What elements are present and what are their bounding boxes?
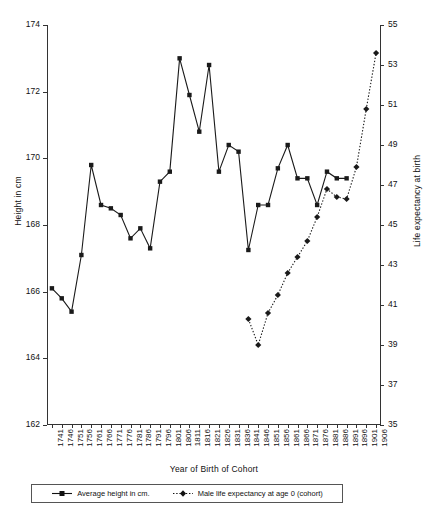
- x-tick-label: 1786: [144, 429, 153, 447]
- data-point: [89, 163, 93, 167]
- y-tick-label-right: 51: [388, 99, 422, 109]
- data-point: [353, 164, 359, 170]
- x-tick-label: 1831: [233, 429, 242, 447]
- y-tick-label-right: 35: [388, 419, 422, 429]
- data-point: [294, 254, 300, 260]
- diamond-marker-icon: [172, 489, 194, 498]
- y-tick-label-left: 172: [6, 86, 40, 96]
- x-tick-label: 1901: [370, 429, 379, 447]
- y-tick-label-right: 43: [388, 259, 422, 269]
- y-tick-label-right: 41: [388, 299, 422, 309]
- y-tick-label-right: 49: [388, 139, 422, 149]
- data-point: [266, 203, 270, 207]
- data-point: [344, 196, 350, 202]
- x-tick-label: 1791: [154, 429, 163, 447]
- legend-label: Average height in cm.: [77, 489, 149, 498]
- plot-area: 162164166168170172174 353739414345474951…: [47, 25, 381, 425]
- data-point: [128, 236, 132, 240]
- data-point: [69, 309, 73, 313]
- data-point: [245, 316, 251, 322]
- x-tick-label: 1896: [360, 429, 369, 447]
- x-tick-label: 1781: [135, 429, 144, 447]
- data-point: [335, 176, 339, 180]
- data-point: [373, 50, 379, 56]
- y-tick-label-left: 168: [6, 219, 40, 229]
- x-tick-label: 1751: [76, 429, 85, 447]
- y-tick-label-right: 39: [388, 339, 422, 349]
- data-point: [118, 213, 122, 217]
- data-point: [168, 169, 172, 173]
- data-point: [50, 286, 54, 290]
- x-tick-label: 1771: [115, 429, 124, 447]
- data-point: [255, 342, 261, 348]
- y-axis-left-title: Height in cm: [13, 146, 23, 256]
- x-tick-label: 1866: [302, 429, 311, 447]
- data-point: [138, 226, 142, 230]
- y-tick-right: [380, 425, 384, 426]
- x-tick-label: 1821: [213, 429, 222, 447]
- data-point: [344, 176, 348, 180]
- y-tick-label-left: 164: [6, 352, 40, 362]
- y-tick-label-right: 45: [388, 219, 422, 229]
- x-tick-label: 1826: [223, 429, 232, 447]
- data-point: [305, 176, 309, 180]
- x-tick-label: 1766: [105, 429, 114, 447]
- data-point: [285, 143, 289, 147]
- data-point: [295, 176, 299, 180]
- data-point: [275, 292, 281, 298]
- data-point: [246, 248, 250, 252]
- x-tick-label: 1756: [85, 429, 94, 447]
- x-axis-title: Year of Birth of Cohort: [47, 464, 381, 474]
- x-tick-label: 1871: [311, 429, 320, 447]
- data-point: [158, 179, 162, 183]
- chart-legend: Average height in cm.Male life expectanc…: [31, 484, 343, 503]
- data-point: [315, 203, 319, 207]
- y-tick-label-left: 162: [6, 419, 40, 429]
- legend-item-1: Male life expectancy at age 0 (cohort): [172, 489, 323, 498]
- x-tick-label: 1876: [321, 429, 330, 447]
- data-point: [276, 166, 280, 170]
- series-line-1: [248, 53, 376, 345]
- legend-label: Male life expectancy at age 0 (cohort): [198, 489, 323, 498]
- x-tick-label: 1811: [193, 429, 202, 446]
- series-line-0: [52, 58, 347, 311]
- x-tick-label: 1856: [282, 429, 291, 447]
- data-point: [109, 206, 113, 210]
- y-tick-label-left: 170: [6, 152, 40, 162]
- x-tick-label: 1891: [351, 429, 360, 447]
- data-point: [99, 203, 103, 207]
- y-tick-label-right: 37: [388, 379, 422, 389]
- x-tick-label: 1761: [95, 429, 104, 447]
- data-point: [256, 203, 260, 207]
- data-point: [363, 106, 369, 112]
- y-tick-left: [43, 425, 47, 426]
- x-tick-label: 1836: [243, 429, 252, 447]
- x-tick-label: 1886: [341, 429, 350, 447]
- series-layer: [47, 25, 381, 425]
- x-tick-label: 1906: [380, 429, 389, 447]
- legend-item-0: Average height in cm.: [51, 489, 149, 498]
- data-point: [227, 143, 231, 147]
- data-point: [314, 214, 320, 220]
- data-point: [236, 149, 240, 153]
- data-point: [79, 253, 83, 257]
- x-tick-label: 1861: [292, 429, 301, 447]
- x-tick-label: 1806: [184, 429, 193, 447]
- y-tick-label-right: 53: [388, 59, 422, 69]
- y-tick-label-left: 174: [6, 19, 40, 29]
- data-point: [187, 93, 191, 97]
- data-point: [285, 270, 291, 276]
- x-tick-label: 1776: [125, 429, 134, 447]
- data-point: [148, 246, 152, 250]
- y-tick-label-right: 47: [388, 179, 422, 189]
- data-point: [217, 169, 221, 173]
- square-marker-icon: [51, 489, 73, 498]
- x-tick-label: 1741: [56, 429, 65, 447]
- data-point: [265, 310, 271, 316]
- y-tick-label-right: 55: [388, 19, 422, 29]
- x-tick-label: 1841: [252, 429, 261, 447]
- data-point: [197, 129, 201, 133]
- data-point: [325, 169, 329, 173]
- x-tick-label: 1801: [174, 429, 183, 447]
- data-point: [60, 296, 64, 300]
